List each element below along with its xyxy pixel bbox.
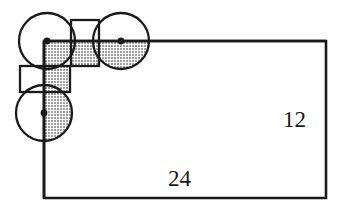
shaded-regions: [16, 13, 149, 141]
vertex-top-left-dot: [44, 38, 51, 45]
dimension-label-width: 24: [168, 167, 191, 190]
geometry-figure: 12 24: [0, 0, 341, 223]
vertex-top-right-dot: [118, 38, 125, 45]
vertex-bottom-left-dot: [41, 110, 48, 117]
dimension-label-height: 12: [283, 108, 306, 131]
